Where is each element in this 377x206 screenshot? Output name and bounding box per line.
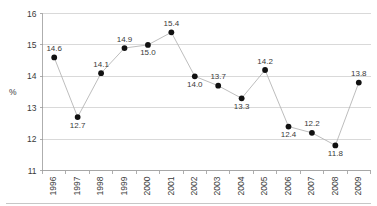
x-tick-label-1998: 1998 — [95, 176, 105, 195]
x-tick-label-2003: 2003 — [212, 176, 222, 195]
data-point-1999 — [122, 45, 128, 51]
x-tick-label-1999: 1999 — [119, 176, 129, 195]
x-tick-label-1997: 1997 — [72, 176, 82, 195]
data-point-2002 — [192, 73, 198, 79]
data-point-2008 — [332, 142, 338, 148]
series-line — [54, 32, 359, 145]
x-axis-tick-labels: 1996199719981999200020012002200320042005… — [48, 176, 363, 195]
x-tick-label-1996: 1996 — [48, 176, 58, 195]
y-axis-title: % — [9, 87, 17, 97]
y-tick-label-14: 14 — [27, 71, 37, 81]
data-label-2001: 15.4 — [164, 19, 180, 28]
data-point-2006 — [286, 124, 292, 130]
line-chart: 111213141516 % 1996199719981999200020012… — [0, 0, 377, 206]
data-point-1998 — [98, 70, 104, 76]
y-axis-tick-labels: 111213141516 — [27, 9, 37, 176]
data-label-2004: 13.3 — [234, 102, 250, 111]
series-markers — [51, 29, 361, 148]
y-tick-label-11: 11 — [28, 166, 37, 176]
data-label-2003: 13.7 — [210, 72, 226, 81]
data-point-1996 — [51, 55, 57, 61]
series-polyline — [54, 32, 359, 145]
data-label-2000: 15.0 — [140, 48, 156, 57]
data-label-2007: 12.2 — [304, 119, 320, 128]
data-point-1997 — [75, 114, 81, 120]
gridlines — [43, 14, 371, 171]
data-label-1999: 14.9 — [117, 35, 133, 44]
y-tick-label-12: 12 — [27, 134, 37, 144]
data-point-2003 — [215, 83, 221, 89]
data-point-2005 — [262, 67, 268, 73]
axes — [40, 14, 371, 174]
data-label-2006: 12.4 — [281, 130, 297, 139]
data-label-1998: 14.1 — [93, 60, 109, 69]
data-point-2004 — [239, 95, 245, 101]
data-point-2007 — [309, 130, 315, 136]
data-label-1996: 14.6 — [46, 44, 62, 53]
y-tick-label-15: 15 — [27, 40, 37, 50]
y-tick-label-16: 16 — [27, 9, 37, 19]
x-tick-label-2009: 2009 — [353, 176, 363, 195]
x-tick-label-2000: 2000 — [142, 176, 152, 195]
data-label-2005: 14.2 — [257, 57, 273, 66]
x-tick-label-2005: 2005 — [259, 176, 269, 195]
y-axis-title-text: % — [9, 87, 17, 97]
data-point-2001 — [168, 29, 174, 35]
data-point-2000 — [145, 42, 151, 48]
x-tick-label-2007: 2007 — [306, 176, 316, 195]
x-tick-label-2008: 2008 — [330, 176, 340, 195]
x-tick-label-2001: 2001 — [166, 176, 176, 195]
x-tick-label-2006: 2006 — [283, 176, 293, 195]
x-tick-label-2004: 2004 — [236, 176, 246, 195]
y-tick-label-13: 13 — [27, 103, 37, 113]
chart-canvas: 111213141516 % 1996199719981999200020012… — [0, 0, 377, 206]
data-label-2009: 13.8 — [351, 69, 367, 78]
x-tick-label-2002: 2002 — [189, 176, 199, 195]
data-point-2009 — [356, 80, 362, 86]
data-label-2002: 14.0 — [187, 80, 203, 89]
data-label-2008: 11.8 — [328, 149, 344, 158]
data-label-1997: 12.7 — [70, 121, 86, 130]
